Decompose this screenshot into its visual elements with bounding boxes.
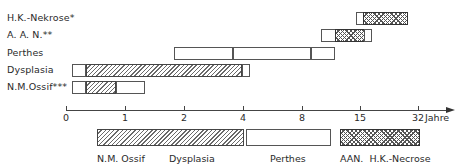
row-label-aan: A. A. N.**	[7, 29, 52, 41]
x-axis-line	[66, 110, 450, 111]
x-tick-label: 4	[240, 112, 246, 124]
bar-dysplasia-hatched	[86, 64, 242, 77]
x-tick-0	[66, 106, 67, 111]
bar-nm-ossif-plain-end	[116, 81, 145, 94]
bar-perthes-2	[233, 47, 311, 60]
legend-label-perthes: Perthes	[270, 153, 306, 165]
bar-aan-crosshatch	[335, 29, 365, 42]
bar-nm-ossif-hatched	[86, 81, 116, 94]
x-tick-4	[243, 106, 244, 111]
legend-plain-swatch	[246, 129, 331, 146]
row-label-hk-nekrose: H.K.-Nekrose*	[7, 12, 74, 24]
bar-dysplasia-plain-start	[72, 64, 86, 77]
legend-label-nm-ossif: N.M. Ossif	[97, 153, 145, 165]
x-tick-8	[302, 106, 303, 111]
x-tick-label: 15	[354, 112, 366, 124]
row-label-nm-ossif: N.M.Ossif***	[7, 81, 67, 93]
bar-nm-ossif-plain-start	[72, 81, 86, 94]
legend-hatched-swatch	[97, 129, 244, 146]
legend-label-aan-hk-necrose: AAN. H.K.-Necrose	[340, 153, 431, 165]
x-tick-label: 1	[122, 112, 128, 124]
row-label-perthes: Perthes	[7, 47, 43, 59]
x-tick-label: 8	[299, 112, 305, 124]
bar-dysplasia-plain-end	[242, 64, 250, 77]
bar-perthes-3	[311, 47, 335, 60]
x-tick-label: 0	[63, 112, 69, 124]
x-tick-label: 32	[412, 112, 424, 124]
row-label-dysplasia: Dysplasia	[7, 64, 54, 76]
bar-hk-nekrose-crosshatch	[363, 12, 408, 25]
x-tick-15	[360, 106, 361, 111]
x-axis-unit-label: Jahre	[425, 112, 449, 124]
bar-perthes-1	[174, 47, 233, 60]
x-tick-1	[125, 106, 126, 111]
x-tick-2	[184, 106, 185, 111]
legend-crosshatch-swatch	[340, 129, 420, 146]
bar-aan-plain-end	[364, 29, 372, 42]
x-tick-32	[418, 106, 419, 111]
x-tick-label: 2	[181, 112, 187, 124]
bar-aan-plain-start	[321, 29, 336, 42]
legend-label-dysplasia: Dysplasia	[169, 153, 215, 165]
